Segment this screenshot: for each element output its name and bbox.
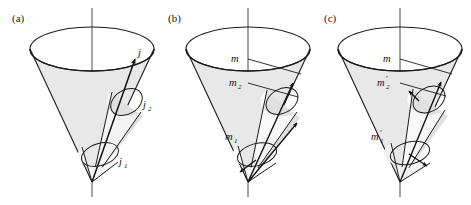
panel-b-m2-sub: 2 [238,83,242,91]
panel-b-m-label: m [231,53,239,64]
panel-c-label: (c) [324,12,337,25]
panel-a-j1-sub: 1 [124,162,128,170]
panel-a-label: (a) [12,12,25,25]
panel-a-j1-label: j 1 [117,156,128,170]
panel-a-j-label: j [136,47,141,58]
panel-c-m2prime-sub: 2 [386,83,390,91]
panel-c-m1prime-base: m [371,131,379,142]
panel-b-m2-base: m [229,77,237,88]
panel-b-label: (b) [168,12,181,25]
figure-container: (a) j j 2 j 1 [0,0,471,205]
panel-c-m2prime-base: m [377,77,385,88]
panel-a-j2-label: j 2 [141,99,152,113]
panel-b-m1-base: m [225,131,233,142]
panel-a: (a) j j 2 j 1 [12,8,154,197]
panel-b-m1-sub: 1 [234,137,238,145]
panel-a-j2-sub: 2 [148,105,152,113]
panel-c-m1prime-sub: 1 [380,137,384,145]
panel-a-j1-base: j [117,156,122,167]
panel-b: (b) m m 2 m 1 [168,8,310,197]
panel-c: (c) m m ′ 2 m ′ 1 [324,8,462,197]
cone-vector-model-diagram: (a) j j 2 j 1 [0,0,471,205]
panel-c-m1prime-label: m ′ 1 [371,128,384,145]
panel-c-m-label: m [383,53,391,64]
